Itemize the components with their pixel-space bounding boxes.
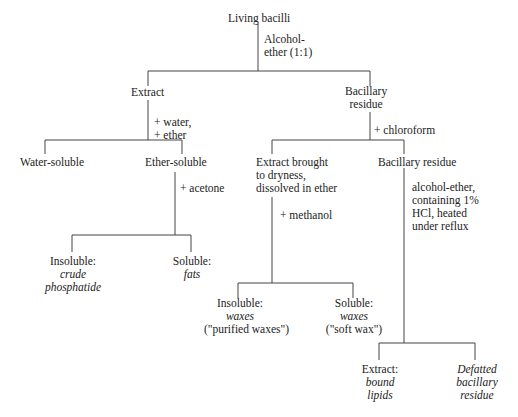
node-root: Living bacilli: [228, 12, 290, 25]
node-note: ("soft wax"): [322, 323, 386, 336]
node-extract: Extract: [131, 86, 164, 99]
step-line: Alcohol-: [264, 33, 312, 46]
node-insoluble-waxes: Insoluble: waxes ("purified waxes"): [204, 297, 276, 336]
node-label: Insoluble:: [204, 297, 276, 310]
node-insoluble-phosphatide: Insoluble: crude phosphatide: [44, 255, 102, 294]
step-line: + water,: [154, 116, 191, 129]
node-line: to dryness,: [256, 169, 337, 182]
node-label: Extract:: [358, 363, 402, 376]
step-line: under reflux: [412, 220, 479, 233]
node-bacillary-residue: Bacillary residue: [345, 85, 387, 111]
node-defatted-residue: Defatted bacillary residue: [454, 363, 500, 402]
node-label: Soluble:: [170, 255, 214, 268]
step-line: containing 1%: [412, 194, 479, 207]
step-alcohol-ether: Alcohol- ether (1:1): [264, 33, 312, 59]
node-extract-dried: Extract brought to dryness, dissolved in…: [256, 156, 337, 195]
node-line: residue: [454, 389, 500, 402]
node-label: Insoluble:: [44, 255, 102, 268]
node-line: Defatted: [454, 363, 500, 376]
node-sub: bound: [358, 376, 402, 389]
step-methanol: + methanol: [280, 209, 332, 222]
node-water-soluble: Water-soluble: [20, 156, 84, 169]
node-sub: fats: [170, 268, 214, 281]
node-note: ("purified waxes"): [204, 323, 276, 336]
node-line: Extract brought: [256, 156, 337, 169]
node-sub: crude: [44, 268, 102, 281]
step-acetone: + acetone: [180, 182, 224, 195]
node-bacillary-residue-2: Bacillary residue: [378, 156, 456, 169]
node-soluble-waxes: Soluble: waxes ("soft wax"): [322, 297, 386, 336]
step-water-ether: + water, + ether: [154, 116, 191, 142]
node-label: Soluble:: [322, 297, 386, 310]
step-line: alcohol-ether,: [412, 181, 479, 194]
node-ether-soluble: Ether-soluble: [145, 156, 207, 169]
step-line: ether (1:1): [264, 46, 312, 59]
node-sub: phosphatide: [44, 281, 102, 294]
node-line: residue: [345, 98, 387, 111]
step-line: + ether: [154, 129, 191, 142]
node-line: dissolved in ether: [256, 182, 337, 195]
node-sub: lipids: [358, 389, 402, 402]
step-chloroform: + chloroform: [374, 124, 435, 137]
node-sub: waxes: [322, 310, 386, 323]
node-sub: waxes: [204, 310, 276, 323]
node-line: bacillary: [454, 376, 500, 389]
node-line: Bacillary: [345, 85, 387, 98]
node-bound-lipids: Extract: bound lipids: [358, 363, 402, 402]
node-soluble-fats: Soluble: fats: [170, 255, 214, 281]
step-acid-hydrolysis: alcohol-ether, containing 1% HCl, heated…: [412, 181, 479, 233]
step-line: HCl, heated: [412, 207, 479, 220]
